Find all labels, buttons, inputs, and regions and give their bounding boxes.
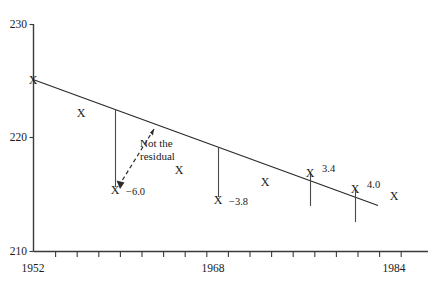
x-tick-label-1952: 1952 [22,262,45,274]
y-tick-label-210: 210 [10,245,28,257]
regression-line [33,80,378,206]
y-tick-labels: 230 220 210 [10,18,28,257]
value-label-p3: −6.0 [126,186,145,197]
x-tick-labels: 1952 1968 1984 [22,262,406,274]
residual-value-labels: −6.0 −3.8 3.4 4.0 [126,163,380,207]
value-label-p7: 3.4 [322,163,336,174]
x-tick-label-1984: 1984 [383,262,406,274]
annotation-line-1: Not the [140,137,173,149]
data-point-markers: X X X X X X X X X [29,73,399,207]
y-tick-label-220: 220 [10,131,28,143]
data-point-p5: X [214,193,223,207]
plot-canvas: 230 220 210 1952 1968 1984 X X X X X X X… [0,0,435,283]
data-point-p8: X [351,182,360,196]
data-point-p2: X [77,106,86,120]
annotation-line-2: residual [140,150,175,162]
value-label-p8: 4.0 [367,179,380,190]
data-point-p7: X [306,166,315,180]
data-point-p4: X [175,163,184,177]
annotation-not-the-residual: Not the residual [140,137,175,162]
scatter-plot-chart: 230 220 210 1952 1968 1984 X X X X X X X… [0,0,435,283]
value-label-p5: −3.8 [229,196,248,207]
data-point-p6: X [261,175,270,189]
x-tick-label-1968: 1968 [202,262,225,274]
data-point-p9: X [390,189,399,203]
data-point-p3: X [111,183,120,197]
x-axis-ticks [56,252,402,258]
data-point-p1: X [29,73,38,87]
y-tick-label-230: 230 [10,18,28,30]
